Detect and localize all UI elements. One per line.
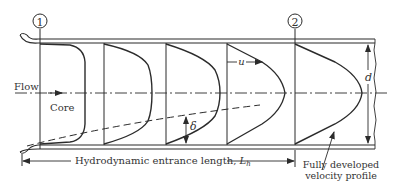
flow-label: Flow xyxy=(14,81,39,92)
entrance-length-dimension: Hydrodynamic entrance length, Lh xyxy=(22,154,294,168)
core-label: Core xyxy=(50,102,74,113)
entrance-region-diagram: 1 2 u δ d Flow xyxy=(0,0,396,189)
diameter-annotation: d xyxy=(364,45,373,143)
station-2-label: 2 xyxy=(292,16,299,29)
velocity-profiles xyxy=(40,43,362,145)
velocity-profile-4 xyxy=(227,44,285,144)
delta-label: δ xyxy=(190,120,197,133)
pipe-break-line xyxy=(374,39,376,149)
velocity-u-label: u xyxy=(238,56,244,67)
velocity-profile-2 xyxy=(104,44,152,144)
velocity-profile-5 xyxy=(295,44,362,144)
entrance-length-label: Hydrodynamic entrance length, Lh xyxy=(75,155,251,168)
boundary-layer-thickness-annotation: δ xyxy=(186,117,197,143)
pipe-bottom-wall xyxy=(20,145,375,153)
fully-developed-label-line2: velocity profile xyxy=(304,170,377,181)
fully-developed-label-line1: Fully developed xyxy=(303,159,379,170)
station-2-marker: 2 xyxy=(288,14,302,167)
velocity-u-annotation: u xyxy=(227,56,262,67)
pipe-top-wall xyxy=(20,34,375,44)
velocity-profile-1 xyxy=(40,44,85,144)
station-1-label: 1 xyxy=(37,16,44,29)
diameter-label: d xyxy=(365,71,372,84)
